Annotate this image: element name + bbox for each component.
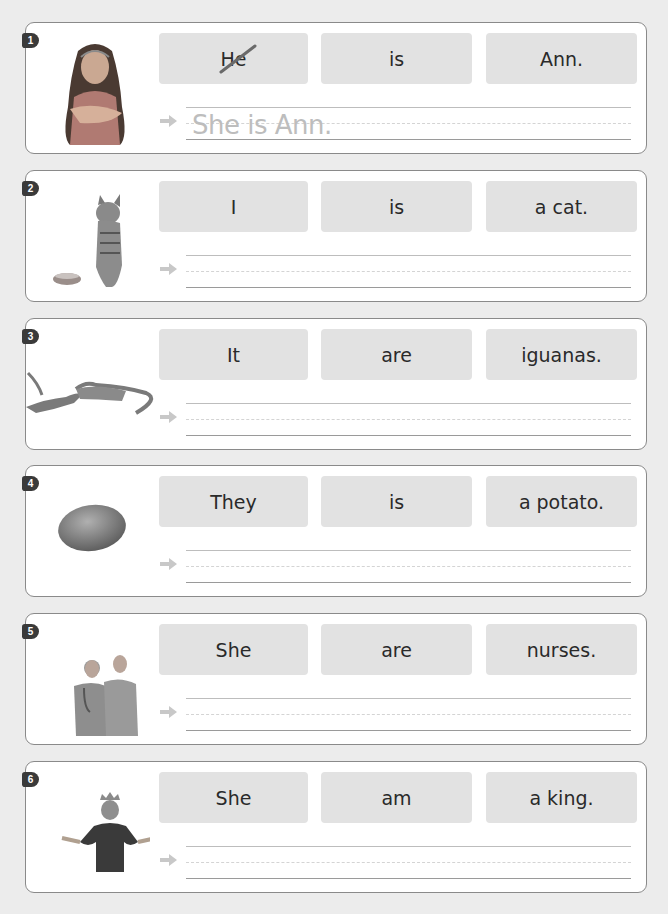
writing-line-middle <box>186 862 631 863</box>
potato-image <box>40 480 150 588</box>
crossed-out-word: He <box>221 48 247 70</box>
word-box-complement: a potato. <box>486 476 637 527</box>
word-box-verb: is <box>321 33 472 84</box>
word-box-subject: He <box>159 33 308 84</box>
exercise-number-badge: 2 <box>22 181 39 196</box>
word-box-verb: are <box>321 329 472 380</box>
word-box-complement: a king. <box>486 772 637 823</box>
word-box-verb: is <box>321 476 472 527</box>
writing-line-top <box>186 550 631 551</box>
arrow-right-icon <box>160 558 178 570</box>
writing-line-top <box>186 403 631 404</box>
writing-line-bottom <box>186 435 631 436</box>
arrow-right-icon <box>160 263 178 275</box>
word-box-complement: Ann. <box>486 33 637 84</box>
nurses-image <box>40 628 150 736</box>
king-image <box>40 776 150 884</box>
writing-line-top <box>186 107 631 108</box>
writing-line-middle <box>186 714 631 715</box>
girl-image <box>40 37 150 145</box>
writing-line-middle <box>186 419 631 420</box>
exercise-number-badge: 5 <box>22 624 39 639</box>
word-box-complement: nurses. <box>486 624 637 675</box>
word-box-complement: a cat. <box>486 181 637 232</box>
writing-line-top <box>186 698 631 699</box>
arrow-right-icon <box>160 115 178 127</box>
writing-line-top <box>186 846 631 847</box>
exercise-number-badge: 1 <box>22 33 39 48</box>
word-box-subject: I <box>159 181 308 232</box>
word-box-subject: She <box>159 624 308 675</box>
arrow-right-icon <box>160 706 178 718</box>
exercise-card-6: 6 She am a king. <box>25 761 647 893</box>
exercise-card-3: 3 It are iguanas. <box>25 318 647 450</box>
exercise-card-1: 1 He is Ann. She is Ann. <box>25 22 647 154</box>
exercise-number-badge: 6 <box>22 772 39 787</box>
exercise-number-badge: 4 <box>22 476 39 491</box>
word-box-subject: She <box>159 772 308 823</box>
writing-line-middle <box>186 566 631 567</box>
strikethrough-mark <box>215 42 259 76</box>
writing-line-bottom <box>186 730 631 731</box>
word-box-verb: am <box>321 772 472 823</box>
exercise-card-5: 5 She are nurses. <box>25 613 647 745</box>
exercise-card-2: 2 I is a cat. <box>25 170 647 302</box>
writing-line-bottom <box>186 878 631 879</box>
writing-line-bottom <box>186 287 631 288</box>
word-box-complement: iguanas. <box>486 329 637 380</box>
word-box-subject: It <box>159 329 308 380</box>
arrow-right-icon <box>160 411 178 423</box>
answer-text[interactable]: She is Ann. <box>192 111 332 139</box>
iguanas-image <box>26 333 166 441</box>
arrow-right-icon <box>160 854 178 866</box>
writing-line-bottom <box>186 582 631 583</box>
writing-line-top <box>186 255 631 256</box>
word-box-verb: are <box>321 624 472 675</box>
exercise-card-4: 4 They is a potato. <box>25 465 647 597</box>
writing-line-middle <box>186 271 631 272</box>
cat-image <box>40 185 150 293</box>
word-box-verb: is <box>321 181 472 232</box>
word-box-subject: They <box>159 476 308 527</box>
